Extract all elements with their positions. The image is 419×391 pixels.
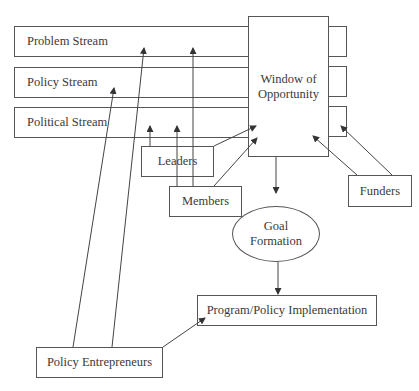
arrow-entrepreneurs-to-policy-stream <box>73 88 114 347</box>
arrow-leaders-to-window <box>214 126 256 146</box>
policy-streams-diagram: Problem Stream Policy Stream Political S… <box>0 0 419 391</box>
arrow-entrepreneurs-to-problem-stream <box>112 48 144 347</box>
connector-arrows <box>0 0 419 391</box>
arrow-members-to-window <box>214 138 257 186</box>
arrow-entrepreneurs-to-implementation <box>163 318 205 347</box>
arrow-funders-to-window <box>313 136 357 175</box>
